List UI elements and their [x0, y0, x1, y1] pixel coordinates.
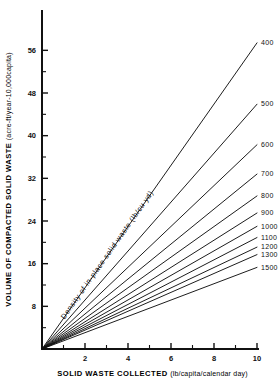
curve-label-1100: 1100 [261, 234, 277, 241]
y-axis-tick-label: 32 [28, 174, 36, 183]
curve-label-1300: 1300 [261, 251, 278, 258]
curve-label-1000: 1000 [261, 223, 278, 230]
curve-label-900: 900 [261, 209, 274, 216]
y-axis-tick-label: 8 [32, 302, 36, 311]
x-axis-title: SOLID WASTE COLLECTED (lb/capita/calenda… [57, 369, 247, 378]
y-axis-tick-label: 40 [28, 131, 36, 140]
curve-label-1500: 1500 [261, 264, 278, 271]
x-axis-tick-label: 10 [253, 354, 261, 363]
y-axis-tick-label: 24 [28, 217, 37, 226]
x-axis-tick-label: 8 [212, 354, 216, 363]
x-axis-tick-label: 2 [83, 354, 87, 363]
curve-label-1200: 1200 [261, 243, 278, 250]
y-axis-tick-label: 16 [28, 259, 36, 268]
x-axis-tick-label: 4 [126, 354, 131, 363]
curve-label-600: 600 [261, 141, 274, 148]
solid-waste-volume-chart: 8162432404856246810400500600700800900100… [0, 0, 280, 381]
y-axis-tick-label: 48 [28, 89, 36, 98]
curve-label-800: 800 [261, 192, 274, 199]
data-line-600 [42, 145, 257, 349]
curve-label-400: 400 [261, 39, 274, 46]
chart-container: 8162432404856246810400500600700800900100… [0, 0, 280, 381]
y-axis-tick-label: 56 [28, 46, 36, 55]
curve-label-500: 500 [261, 100, 274, 107]
y-axis-title: VOLUME OF COMPACTED SOLID WASTE (acre-ft… [4, 52, 13, 306]
data-line-900 [42, 213, 257, 349]
data-line-500 [42, 104, 257, 349]
data-line-1000 [42, 226, 257, 349]
data-line-800 [42, 196, 257, 349]
x-axis-tick-label: 6 [169, 354, 173, 363]
curve-label-700: 700 [261, 170, 274, 177]
